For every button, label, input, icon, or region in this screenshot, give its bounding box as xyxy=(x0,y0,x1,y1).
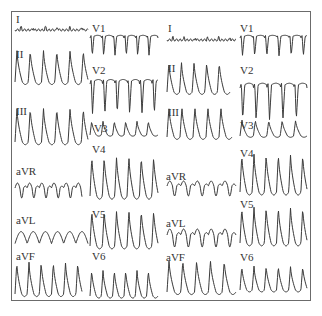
trace-aVR-left xyxy=(15,183,82,198)
trace-II-left xyxy=(15,51,88,85)
trace-V3-left xyxy=(90,121,158,136)
trace-V5-left xyxy=(90,212,158,249)
trace-aVF-right xyxy=(167,261,236,295)
trace-V4-left xyxy=(90,158,158,199)
trace-III-right xyxy=(167,109,232,140)
trace-aVR-right xyxy=(167,181,236,196)
trace-V2-right xyxy=(240,83,307,119)
trace-aVL-left xyxy=(15,232,88,244)
trace-aVL-right xyxy=(167,229,236,247)
trace-II-right xyxy=(167,63,230,95)
trace-III-left xyxy=(15,109,88,145)
trace-V2-left xyxy=(90,80,158,114)
trace-V3-right xyxy=(240,120,307,137)
ecg-traces xyxy=(0,0,322,316)
trace-V1-left xyxy=(90,35,158,55)
trace-V6-left xyxy=(90,271,158,299)
trace-I-left xyxy=(15,26,88,31)
trace-V4-right xyxy=(240,154,307,195)
trace-V1-right xyxy=(240,35,307,56)
trace-aVF-left xyxy=(15,262,82,296)
trace-V5-right xyxy=(240,207,307,246)
trace-I-right xyxy=(167,36,236,41)
trace-V6-right xyxy=(240,266,307,292)
